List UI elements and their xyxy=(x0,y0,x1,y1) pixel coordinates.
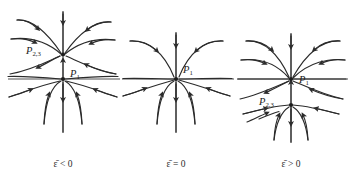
fixed-point-p1 xyxy=(174,77,178,81)
flow-line xyxy=(179,78,232,79)
caption-panel-3: ε̄ > 0 xyxy=(282,159,301,169)
fixed-point-p1 xyxy=(289,77,293,81)
fixed-point-p23 xyxy=(61,52,65,56)
fixed-point-p1 xyxy=(61,77,65,81)
flow-line xyxy=(123,78,174,79)
phase-portrait-figure: P1 P2,3 ε̄ < 0 xyxy=(0,0,353,181)
fixed-point-p23 xyxy=(289,103,293,107)
caption-panel-2: ε̄ = 0 xyxy=(167,159,186,169)
caption-panel-1: ε̄ < 0 xyxy=(54,159,73,169)
